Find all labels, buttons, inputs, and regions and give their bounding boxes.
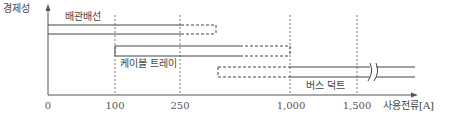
x-tick-1500: 1,500 xyxy=(343,101,372,111)
y-axis-label: 경제성 xyxy=(3,4,30,14)
x-axis-label: 사용전류[A] xyxy=(383,101,434,111)
band-bus-duct xyxy=(218,63,415,81)
y-axis-arrow-icon xyxy=(46,4,51,11)
band-piping xyxy=(48,25,216,34)
x-tick-1000: 1,000 xyxy=(277,101,306,111)
x-tick-100: 100 xyxy=(105,101,124,111)
label-piping: 배관배선 xyxy=(65,12,101,22)
label-bus-duct: 버스 덕트 xyxy=(306,81,345,91)
x-axis-arrow-icon xyxy=(411,93,418,98)
band-cable-tray xyxy=(115,46,290,56)
label-cable-tray: 케이블 트레이 xyxy=(120,59,177,69)
x-tick-0: 0 xyxy=(45,101,51,111)
current-economy-diagram: 경제성 배관배선 케이블 트레이 버스 덕트 0 100 250 1,000 1… xyxy=(0,0,450,121)
x-tick-250: 250 xyxy=(170,101,189,111)
break-mark-icon xyxy=(368,63,372,81)
